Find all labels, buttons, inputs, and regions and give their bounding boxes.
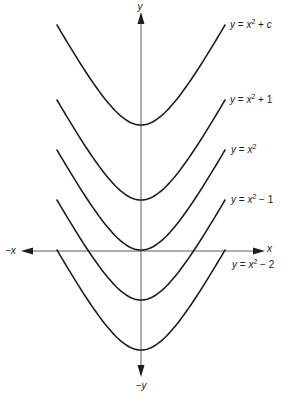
y-axis-up-arrow-icon (138, 12, 145, 24)
curve-label-x2-plus-1: y = x2 + 1 (229, 93, 273, 105)
curve-label-x2-minus-2: y = x2 − 2 (231, 258, 275, 270)
axes (21, 12, 265, 377)
x-axis-right-arrow-icon (253, 248, 265, 255)
x-axis-positive-label: x (266, 243, 273, 254)
parabola-family-graph: y −y −x x y = x2 + c y = x2 + 1 y = x2 y… (0, 0, 284, 396)
curve-label-x2-plus-c: y = x2 + c (229, 18, 272, 30)
curve-label-x2: y = x2 (230, 143, 256, 155)
curve-label-x2-minus-1: y = x2 − 1 (230, 193, 274, 205)
x-axis-left-arrow-icon (21, 248, 33, 255)
x-axis-negative-label: −x (5, 245, 17, 256)
y-axis-negative-label: −y (136, 380, 148, 391)
y-axis-down-arrow-icon (138, 365, 145, 377)
y-axis-positive-label: y (137, 1, 144, 12)
